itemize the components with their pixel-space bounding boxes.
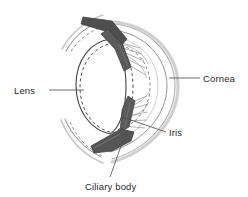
label-iris: Iris <box>169 127 182 138</box>
eye-anatomy-figure: Lens Cornea Iris Ciliary body <box>0 0 248 197</box>
label-lens: Lens <box>14 85 35 96</box>
label-cornea: Cornea <box>203 73 236 84</box>
label-ciliary-body: Ciliary body <box>85 181 137 192</box>
sclera-lower-curve-outer <box>61 120 103 163</box>
eye-diagram-canvas: Lens Cornea Iris Ciliary body <box>0 0 248 197</box>
sclera-group <box>61 15 104 163</box>
sclera-upper-dashed <box>70 26 104 53</box>
